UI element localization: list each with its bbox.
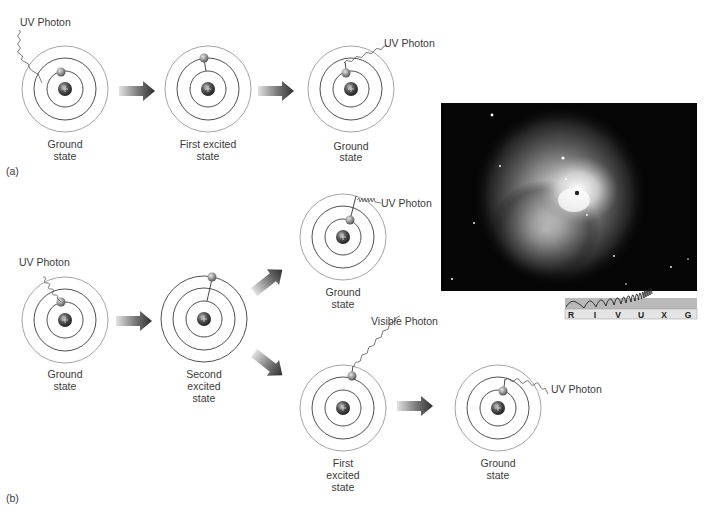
state-caption: First: [333, 457, 353, 469]
transition-arrow-icon: [397, 396, 433, 416]
state-caption: state: [332, 298, 355, 310]
spectrum-bar: R I V U X G: [565, 288, 697, 320]
photon-label: UV Photon: [20, 16, 71, 28]
nucleus-icon: [336, 230, 350, 244]
band-label-v: V: [615, 310, 621, 320]
electron-jump-arrow-icon: [207, 281, 212, 301]
electron-jump-arrow-icon: [345, 62, 346, 69]
band-label-u: U: [638, 310, 644, 320]
photon-wave-icon: [357, 198, 381, 203]
panel-label: (a): [6, 165, 19, 177]
nucleus-icon: [491, 401, 505, 415]
atom-ground-state: [455, 365, 541, 451]
photon-label: UV Photon: [551, 383, 602, 395]
photon-wave-icon: [505, 379, 548, 395]
photon-label: UV Photon: [19, 256, 70, 268]
electron-jump-arrow-icon: [504, 379, 505, 387]
state-caption: state: [54, 380, 77, 392]
transition-arrow-up-icon: [248, 262, 289, 300]
electron-icon: [57, 68, 66, 77]
electron-icon: [208, 273, 217, 282]
atom-first-excited-state: [165, 46, 251, 132]
nucleus-icon: [336, 401, 350, 415]
atom-ground-state: [22, 277, 108, 363]
band-label-g: G: [685, 310, 692, 320]
state-caption: state: [340, 151, 363, 163]
energy-level-diagram: UV Photon Ground state First excited sta…: [0, 0, 716, 511]
nucleus-icon: [201, 82, 215, 96]
transition-arrow-down-icon: [248, 345, 289, 383]
atom-ground-state: [308, 46, 394, 132]
electron-icon: [342, 69, 351, 78]
nucleus-icon: [197, 312, 211, 326]
state-caption: state: [193, 392, 216, 404]
electron-jump-arrow-icon: [352, 366, 353, 372]
transition-arrow-icon: [116, 311, 152, 331]
state-caption: Ground: [47, 368, 82, 380]
band-label-r: R: [568, 310, 574, 320]
state-caption: Ground: [325, 286, 360, 298]
state-caption: state: [487, 469, 510, 481]
band-label-i: I: [594, 310, 596, 320]
state-caption: Ground: [480, 457, 515, 469]
nebula-photo: [441, 100, 697, 291]
state-caption: Ground: [47, 138, 82, 150]
panel-label: (b): [6, 492, 19, 504]
electron-icon: [200, 54, 209, 63]
electron-icon: [346, 216, 355, 225]
atom-ground-state: [22, 46, 108, 132]
electron-jump-arrow-icon: [351, 196, 356, 216]
electron-icon: [499, 387, 508, 396]
state-caption: state: [332, 481, 355, 493]
state-caption: excited: [187, 380, 220, 392]
band-label-x: X: [661, 310, 667, 320]
state-caption: First excited: [180, 138, 237, 150]
electron-jump-arrow-icon: [205, 62, 207, 71]
electron-icon: [348, 372, 357, 381]
atom-ground-state: [300, 194, 386, 280]
atom-first-excited-state: [300, 365, 386, 451]
nucleus-icon: [344, 82, 358, 96]
nucleus-icon: [58, 82, 72, 96]
panel-a: UV Photon Ground state First excited sta…: [6, 16, 435, 177]
nucleus-icon: [58, 313, 72, 327]
transition-arrow-icon: [119, 81, 155, 101]
photon-label: UV Photon: [381, 197, 432, 209]
transition-arrow-icon: [258, 81, 294, 101]
photon-label: UV Photon: [384, 37, 435, 49]
atom-second-excited-state: [161, 273, 247, 363]
photon-wave-icon: [344, 45, 387, 63]
photon-label: Visible Photon: [371, 315, 438, 327]
state-caption: state: [197, 150, 220, 162]
state-caption: excited: [326, 469, 359, 481]
state-caption: state: [54, 150, 77, 162]
state-caption: Second: [186, 368, 222, 380]
photon-wave-icon: [18, 30, 43, 83]
